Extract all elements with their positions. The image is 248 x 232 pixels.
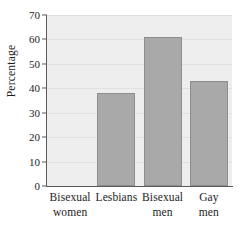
y-axis-tick-labels: 010203040506070 [18,15,40,186]
x-tick-label-line2: men [186,205,232,220]
bar [190,81,228,186]
x-tick-label: Gaymen [186,190,232,220]
x-tick-label: Lesbians [93,190,139,205]
x-tick-label-line1: Bisexual [142,191,183,203]
y-tick-label: 30 [18,107,40,119]
plot-area [47,15,232,186]
y-tick-label: 20 [18,131,40,143]
bar [144,37,182,186]
bar-series [47,15,232,186]
y-tick-label: 10 [18,156,40,168]
x-axis-line [46,186,233,187]
x-tick-label: Bisexualmen [140,190,186,220]
x-tick-label-line1: Gay [199,191,218,203]
x-tick-label-line1: Bisexual [50,191,91,203]
x-tick-label-line2: men [140,205,186,220]
y-tick-label: 70 [18,9,40,21]
bar-chart-figure: Percentage 010203040506070 Bisexualwomen… [0,0,248,232]
y-tick-label: 50 [18,58,40,70]
y-tick-label: 0 [18,180,40,192]
x-tick-label-line1: Lesbians [96,191,138,203]
y-tick-label: 60 [18,33,40,45]
y-tick-label: 40 [18,82,40,94]
bar [97,93,135,186]
x-tick-label: Bisexualwomen [47,190,93,220]
x-axis-tick-labels: BisexualwomenLesbiansBisexualmenGaymen [47,190,232,230]
x-tick-label-line2: women [47,205,93,220]
